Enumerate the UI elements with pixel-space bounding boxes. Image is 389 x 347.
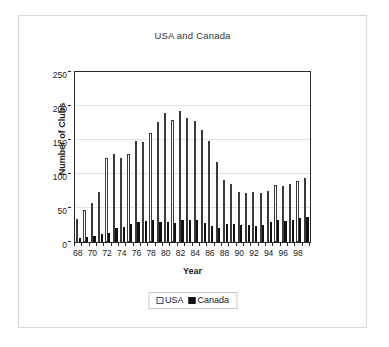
x-tick-label: 68 — [73, 248, 82, 258]
bar-canada[interactable] — [137, 222, 139, 242]
bar-group — [229, 72, 236, 242]
bars-layer — [75, 72, 310, 242]
x-tick-mark — [287, 243, 288, 246]
x-tick-mark — [228, 243, 229, 246]
chart-legend: USA Canada — [148, 292, 237, 309]
y-tick-label: 100 — [53, 172, 67, 174]
x-tick-mark — [177, 243, 178, 246]
x-tick-label: 72 — [102, 248, 111, 258]
x-tick-mark — [250, 243, 251, 246]
bar-canada[interactable] — [270, 222, 272, 242]
legend-label-usa: USA — [165, 295, 184, 305]
bar-canada[interactable] — [79, 238, 81, 242]
bar-canada[interactable] — [204, 223, 206, 242]
bar-canada[interactable] — [123, 227, 125, 242]
x-tick-label: 86 — [205, 248, 214, 258]
bar-canada[interactable] — [167, 222, 169, 242]
x-tick-mark — [169, 243, 170, 246]
x-tick-mark — [221, 243, 222, 246]
x-tick-mark — [272, 243, 273, 246]
bar-usa[interactable] — [105, 158, 107, 242]
bar-group — [295, 72, 302, 242]
x-tick-mark — [74, 243, 75, 246]
x-tick-mark — [206, 243, 207, 246]
bar-group — [237, 72, 244, 242]
bar-canada[interactable] — [233, 224, 235, 242]
y-tick-mark — [68, 207, 71, 208]
bar-canada[interactable] — [277, 220, 279, 242]
bar-group — [90, 72, 97, 242]
y-tick-label: 0 — [62, 240, 67, 242]
chart-title: USA and Canada — [19, 30, 366, 41]
legend-item-canada[interactable]: Canada — [188, 295, 229, 305]
legend-label-canada: Canada — [197, 295, 229, 305]
y-tick-mark — [68, 139, 71, 140]
x-tick-label: 78 — [146, 248, 155, 258]
x-tick-label: 92 — [249, 248, 258, 258]
x-tick-label: 94 — [264, 248, 273, 258]
x-tick-mark — [184, 243, 185, 246]
x-tick-label: 74 — [117, 248, 126, 258]
y-tick-label: 200 — [53, 104, 67, 106]
x-tick-mark — [140, 243, 141, 246]
bar-canada[interactable] — [145, 221, 147, 242]
bar-group — [156, 72, 163, 242]
bar-canada[interactable] — [255, 226, 257, 242]
x-tick-label: 88 — [220, 248, 229, 258]
x-tick-mark — [214, 243, 215, 246]
y-tick-label: 150 — [53, 138, 67, 140]
bar-canada[interactable] — [284, 221, 286, 242]
x-tick-mark — [258, 243, 259, 246]
bar-canada[interactable] — [306, 217, 308, 242]
x-tick-mark — [125, 243, 126, 246]
usa-swatch-icon — [156, 297, 163, 304]
bar-group — [141, 72, 148, 242]
y-tick-mark — [68, 105, 71, 106]
bar-canada[interactable] — [299, 218, 301, 242]
bar-canada[interactable] — [226, 224, 228, 242]
bar-canada[interactable] — [240, 225, 242, 242]
bar-canada[interactable] — [93, 236, 95, 242]
bar-canada[interactable] — [196, 220, 198, 242]
bar-group — [259, 72, 266, 242]
bar-canada[interactable] — [181, 220, 183, 242]
x-tick-label: 98 — [293, 248, 302, 258]
bar-canada[interactable] — [174, 223, 176, 242]
x-tick-mark — [133, 243, 134, 246]
bar-canada[interactable] — [101, 234, 103, 242]
legend-item-usa[interactable]: USA — [156, 295, 184, 305]
bar-group — [193, 72, 200, 242]
bar-group — [104, 72, 111, 242]
bar-group — [266, 72, 273, 242]
bar-canada[interactable] — [248, 225, 250, 242]
bar-canada[interactable] — [115, 228, 117, 242]
bar-canada[interactable] — [292, 220, 294, 242]
bar-group — [126, 72, 133, 242]
x-tick-mark — [111, 243, 112, 246]
x-tick-mark — [192, 243, 193, 246]
bar-canada[interactable] — [152, 220, 154, 242]
bar-canada[interactable] — [130, 224, 132, 242]
bar-group — [303, 72, 310, 242]
y-tick-label: 50 — [58, 206, 67, 208]
bar-canada[interactable] — [86, 237, 88, 242]
bar-canada[interactable] — [108, 233, 110, 242]
x-tick-label: 84 — [190, 248, 199, 258]
bar-group — [82, 72, 89, 242]
bar-canada[interactable] — [189, 220, 191, 242]
bar-canada[interactable] — [159, 222, 161, 242]
bar-group — [148, 72, 155, 242]
bar-canada[interactable] — [211, 226, 213, 242]
bar-group — [170, 72, 177, 242]
x-tick-mark — [199, 243, 200, 246]
bar-group — [163, 72, 170, 242]
x-tick-label: 70 — [88, 248, 97, 258]
bar-group — [288, 72, 295, 242]
bar-group — [207, 72, 214, 242]
bar-canada[interactable] — [218, 228, 220, 242]
y-tick-mark — [68, 71, 71, 72]
x-tick-mark — [162, 243, 163, 246]
bar-canada[interactable] — [262, 225, 264, 242]
x-tick-mark — [243, 243, 244, 246]
x-tick-label: 82 — [176, 248, 185, 258]
